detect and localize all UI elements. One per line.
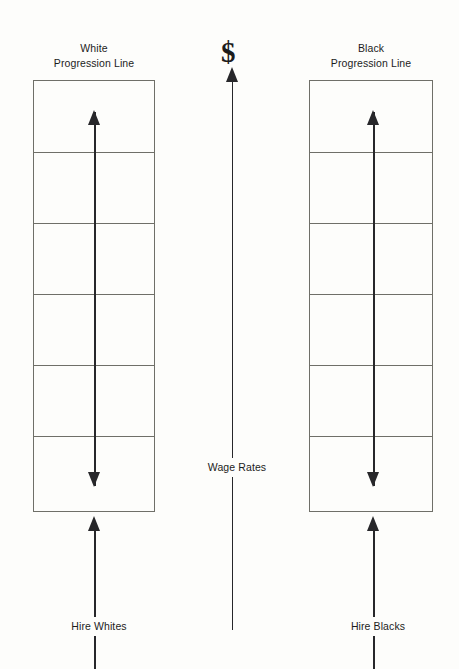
hire-whites-label: Hire Whites (47, 617, 151, 636)
hire-whites-shaft (94, 530, 96, 669)
right-ladder-heading-line1: Black (309, 41, 433, 56)
right-ladder-rung-4 (310, 365, 432, 366)
hire-blacks-label: Hire Blacks (328, 617, 428, 636)
progression-line-diagram: White Progression Line Hire Whites $ Wag… (0, 0, 459, 669)
left-ladder-heading-line2: Progression Line (33, 56, 155, 71)
right-ladder-rung-3 (310, 294, 432, 295)
left-progression-arrow-down-icon (88, 472, 100, 487)
right-progression-ladder (309, 80, 433, 512)
wage-rates-axis-shaft (232, 81, 233, 630)
left-ladder-heading: White Progression Line (33, 41, 155, 71)
left-ladder-heading-line1: White (33, 41, 155, 56)
hire-blacks-shaft (373, 530, 375, 669)
right-progression-arrow-down-icon (367, 472, 379, 487)
dollar-sign-icon: $ (221, 38, 236, 67)
right-ladder-rung-2 (310, 223, 432, 224)
right-ladder-rung-1 (310, 152, 432, 153)
right-ladder-heading: Black Progression Line (309, 41, 433, 71)
left-progression-arrow-up-icon (88, 110, 100, 125)
wage-rates-arrow-up-icon (226, 67, 238, 82)
left-progression-arrow-shaft (94, 112, 96, 486)
right-ladder-rung-5 (310, 436, 432, 437)
right-ladder-heading-line2: Progression Line (309, 56, 433, 71)
right-progression-arrow-shaft (373, 112, 375, 486)
right-progression-arrow-up-icon (367, 110, 379, 125)
wage-rates-label: Wage Rates (188, 458, 286, 477)
hire-blacks-arrow-icon (367, 516, 379, 531)
hire-whites-arrow-icon (88, 516, 100, 531)
